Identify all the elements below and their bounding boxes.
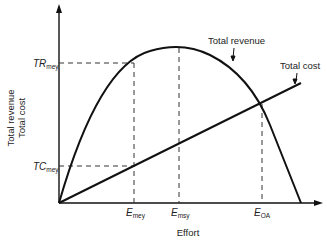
tr-mey-label: TRmey	[33, 58, 59, 71]
total-revenue-label: Total revenue	[208, 35, 265, 46]
y-axis-label-line1: Total revenue	[5, 89, 16, 146]
y-axis-arrow-icon	[56, 4, 62, 13]
e-mey-label: Emey	[126, 207, 146, 220]
total-revenue-arrow-icon	[231, 56, 235, 61]
y-axis-label-line2: Total cost	[16, 98, 27, 138]
e-msy-label: Emsy	[171, 207, 190, 220]
x-axis-label: Effort	[177, 227, 200, 238]
e-oa-label: EOA	[254, 207, 271, 219]
total-cost-arrow-icon	[293, 79, 297, 84]
fishery-economics-diagram: Total revenue Total cost Total revenue T…	[0, 0, 327, 243]
total-cost-line	[59, 83, 301, 203]
total-cost-label: Total cost	[280, 60, 320, 71]
x-axis-arrow-icon	[314, 200, 323, 206]
total-revenue-curve	[59, 47, 301, 203]
tc-mey-label: TCmey	[33, 161, 59, 174]
